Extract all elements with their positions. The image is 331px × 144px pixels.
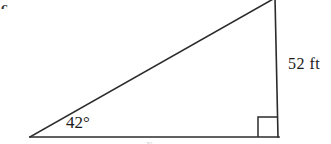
angle-measure-label: 42° [66, 114, 90, 131]
side-length-label: 52 ft [288, 56, 320, 72]
right-triangle-figure: c. 42° 52 ft x [0, 0, 331, 144]
right-angle-marker-icon [258, 117, 278, 137]
base-length-label: x [146, 138, 153, 144]
item-letter-label: c. [1, 0, 11, 9]
triangle-drawing [0, 0, 331, 144]
